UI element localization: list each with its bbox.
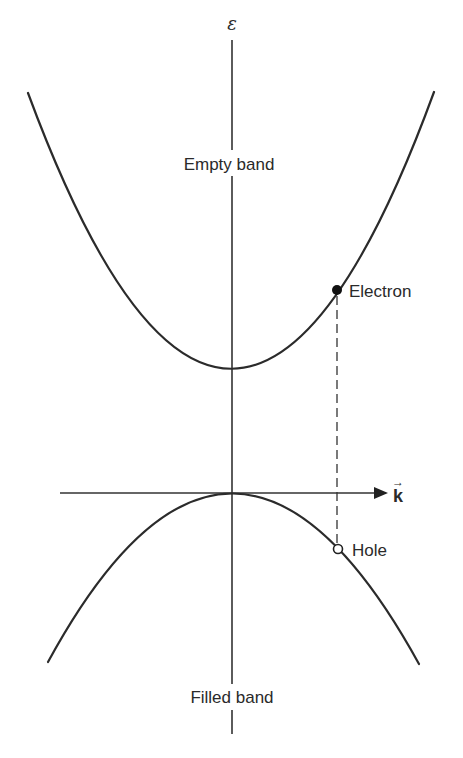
filled-band-curve xyxy=(48,493,419,664)
empty-band-curve xyxy=(28,92,434,369)
band-diagram: ε Empty band Filled band Electron Hole k… xyxy=(0,0,463,758)
empty-band-label: Empty band xyxy=(184,155,275,174)
epsilon-label: ε xyxy=(227,13,237,34)
electron-point xyxy=(332,285,342,295)
filled-band-label: Filled band xyxy=(190,688,273,707)
k-vector-arrow-icon: → xyxy=(392,475,404,489)
k-vector-label: k xyxy=(393,486,404,506)
hole-point xyxy=(334,545,343,554)
electron-label: Electron xyxy=(349,282,411,301)
hole-label: Hole xyxy=(352,541,387,560)
